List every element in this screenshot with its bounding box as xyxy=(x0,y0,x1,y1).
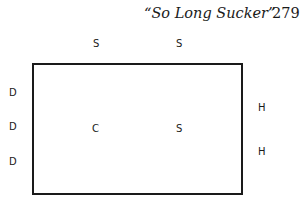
center-label-s: S xyxy=(176,124,182,134)
running-header-title: “So Long Sucker” xyxy=(144,5,275,21)
left-label-d-1: D xyxy=(9,88,17,98)
game-board-rectangle xyxy=(32,63,243,195)
right-label-h-1: H xyxy=(258,103,266,113)
top-label-s-1: S xyxy=(93,39,99,49)
left-label-d-2: D xyxy=(9,122,17,132)
top-label-s-2: S xyxy=(176,39,182,49)
left-label-d-3: D xyxy=(9,157,17,167)
center-label-c: C xyxy=(92,124,99,134)
right-label-h-2: H xyxy=(258,147,266,157)
page-number: 279 xyxy=(272,5,300,21)
